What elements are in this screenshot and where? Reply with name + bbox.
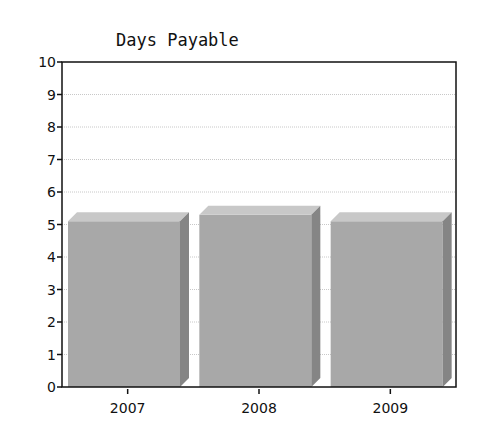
y-tick-label: 5 bbox=[47, 217, 56, 233]
bar-2007 bbox=[68, 212, 189, 387]
x-tick-label: 2009 bbox=[373, 400, 409, 416]
y-tick-label: 9 bbox=[47, 87, 56, 103]
x-axis-ticks: 200720082009 bbox=[110, 389, 408, 416]
y-tick-label: 8 bbox=[47, 119, 56, 135]
y-tick-label: 7 bbox=[47, 152, 56, 168]
y-tick-label: 3 bbox=[47, 282, 56, 298]
bar-2009 bbox=[331, 212, 452, 387]
y-tick-label: 0 bbox=[47, 379, 56, 395]
bar-2008 bbox=[199, 206, 320, 387]
y-tick-label: 6 bbox=[47, 184, 56, 200]
bars bbox=[68, 206, 452, 387]
y-tick-label: 1 bbox=[47, 347, 56, 363]
y-tick-label: 10 bbox=[38, 54, 56, 70]
y-tick-label: 4 bbox=[47, 249, 56, 265]
x-tick-label: 2007 bbox=[110, 400, 146, 416]
x-tick-label: 2008 bbox=[241, 400, 277, 416]
y-axis-ticks: 012345678910 bbox=[38, 54, 62, 395]
bar-chart: Days Payable 012345678910 200720082009 bbox=[0, 0, 484, 440]
y-tick-label: 2 bbox=[47, 314, 56, 330]
chart-title: Days Payable bbox=[116, 30, 239, 50]
